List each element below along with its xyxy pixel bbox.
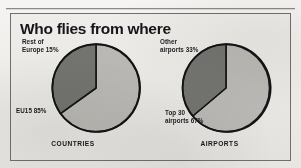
pie-caption-countries: COUNTRIES (3, 140, 143, 147)
pie-chart-countries: Rest of Europe 15% EU15 85% COUNTRIES (11, 14, 151, 160)
pie-caption-airports: AIRPORTS (149, 140, 290, 147)
chart-panel: Who flies from where Rest of Europe 15% … (10, 13, 291, 161)
pie-label-other-airports: Other airports 33% (160, 38, 198, 54)
pie-label-top30-airports: Top 30 airports 67% (165, 109, 203, 125)
pie-label-rest-of-europe: Rest of Europe 15% (22, 38, 59, 54)
pie-countries-svg (50, 42, 142, 134)
top-horizontal-rule-shadow (6, 9, 295, 10)
pie-chart-airports: Other airports 33% Top 30 airports 67% A… (151, 14, 292, 160)
pie-label-eu15: EU15 85% (16, 107, 47, 115)
figure-root: Who flies from where Rest of Europe 15% … (0, 0, 301, 168)
